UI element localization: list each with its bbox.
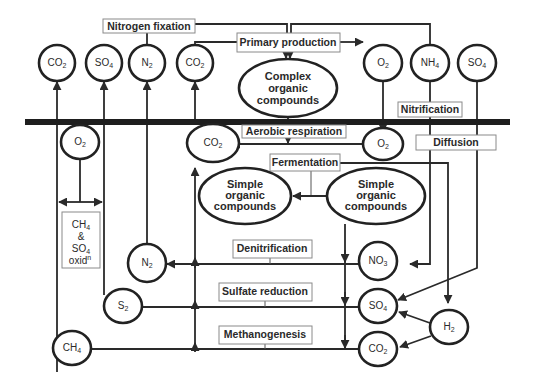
species-top-so4: SO4: [86, 45, 122, 81]
species-n2-low: N2: [128, 244, 166, 282]
simple-organic-compounds-right: Simple organic compounds: [327, 168, 425, 224]
svg-text:compounds: compounds: [345, 200, 407, 212]
nfix-to-pp-line: [195, 24, 287, 33]
species-top-so4-right: SO4: [458, 45, 496, 81]
species-top-co2-left: CO2: [39, 45, 75, 81]
species-sed-o2-left: O2: [61, 125, 99, 159]
complex-organic-compounds: Complex organic compounds: [239, 59, 337, 117]
denitrification-box: Denitrification: [233, 240, 312, 258]
species-sed-o2-right: O2: [363, 128, 403, 160]
ch4-so4-oxidation-box: CH4 & SO4 oxidn: [62, 212, 100, 268]
nitrogen-fixation-box: Nitrogen fixation: [103, 19, 195, 33]
primary-production-box: Primary production: [237, 33, 340, 52]
species-top-nh4: NH4: [411, 45, 449, 81]
svg-text:Primary production: Primary production: [240, 36, 337, 48]
species-top-n2: N2: [129, 45, 165, 81]
species-top-o2: O2: [364, 45, 402, 81]
nitrification-box: Nitrification: [398, 102, 462, 117]
svg-text:Diffusion: Diffusion: [433, 136, 479, 148]
fermentation-box: Fermentation: [270, 154, 340, 171]
svg-text:Denitrification: Denitrification: [237, 242, 308, 254]
diffusion-box: Diffusion: [416, 135, 496, 150]
svg-text:Aerobic respiration: Aerobic respiration: [246, 125, 342, 137]
svg-text:compounds: compounds: [257, 94, 319, 106]
oxid-line-2: &: [78, 231, 85, 242]
methanogenesis-box: Methanogenesis: [219, 326, 312, 344]
biogeochemical-cycle-diagram: Nitrogen fixation Primary production Nit…: [0, 0, 533, 390]
sulfate-reduction-box: Sulfate reduction: [219, 283, 312, 301]
svg-text:Sulfate reduction: Sulfate reduction: [222, 285, 308, 297]
svg-text:Nitrification: Nitrification: [401, 103, 459, 115]
species-ch4: CH4: [53, 331, 91, 365]
simple-organic-compounds-left: Simple organic compounds: [199, 168, 291, 224]
svg-text:Nitrogen fixation: Nitrogen fixation: [107, 20, 190, 32]
svg-text:Complex: Complex: [265, 70, 312, 82]
species-no3: NO3: [359, 242, 397, 280]
species-co2-low: CO2: [359, 332, 397, 366]
species-s2: S2: [104, 289, 142, 323]
svg-text:Methanogenesis: Methanogenesis: [224, 328, 306, 340]
svg-text:compounds: compounds: [214, 200, 276, 212]
svg-text:Fermentation: Fermentation: [272, 156, 339, 168]
aerobic-respiration-box: Aerobic respiration: [242, 125, 346, 138]
h2-to-co2-arrow: [400, 336, 431, 347]
h2-to-so4-arrow: [399, 312, 430, 323]
species-top-co2-mid: CO2: [177, 45, 213, 81]
species-so4-low: SO4: [359, 289, 397, 323]
species-sed-co2: CO2: [187, 124, 239, 162]
svg-text:organic: organic: [268, 82, 308, 94]
species-h2: H2: [430, 310, 468, 344]
